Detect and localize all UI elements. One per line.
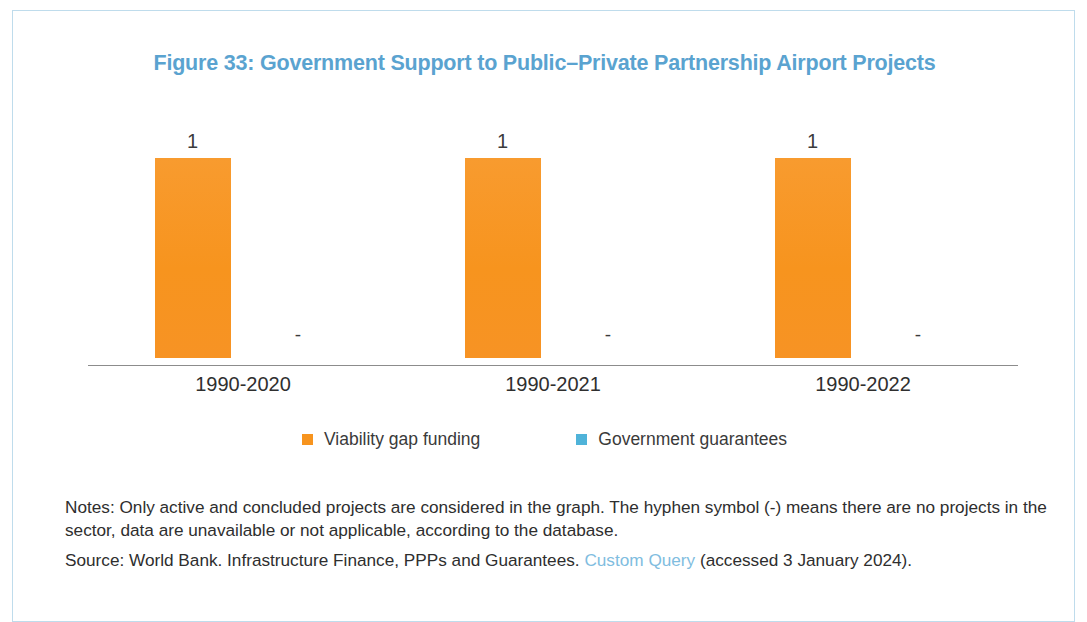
figure-title: Figure 33: Government Support to Public–… xyxy=(13,51,1076,76)
figure-notes: Notes: Only active and concluded project… xyxy=(65,496,1065,543)
figure-frame: Figure 33: Government Support to Public–… xyxy=(12,10,1075,622)
figure-source: Source: World Bank. Infrastructure Finan… xyxy=(65,549,1065,572)
bar-value-label: 1 xyxy=(155,130,231,153)
source-prefix-text: Source: World Bank. Infrastructure Finan… xyxy=(65,550,584,570)
x-axis-tick-label: 1990-2022 xyxy=(708,373,1018,396)
chart-legend: Viability gap funding Government guarant… xyxy=(13,429,1076,450)
legend-item-government-guarantees[interactable]: Government guarantees xyxy=(576,429,787,450)
legend-swatch-blue-icon xyxy=(576,434,587,445)
custom-query-link[interactable]: Custom Query xyxy=(584,550,695,570)
x-axis-tick-label: 1990-2021 xyxy=(398,373,708,396)
legend-label: Government guarantees xyxy=(598,429,787,450)
legend-item-viability-gap-funding[interactable]: Viability gap funding xyxy=(302,429,480,450)
bar-group-1990-2020: 1 - xyxy=(88,106,398,358)
bar-value-label: 1 xyxy=(465,130,541,153)
x-axis-labels: 1990-2020 1990-2021 1990-2022 xyxy=(88,373,1018,396)
bar-government-guarantees-missing: - xyxy=(260,325,336,344)
x-axis-tick-label: 1990-2020 xyxy=(88,373,398,396)
bar-viability-gap-funding[interactable] xyxy=(465,158,541,358)
chart-plot-area: 1 - 1 - 1 - xyxy=(88,106,1018,366)
x-axis-line xyxy=(88,365,1018,367)
bar-value-label: 1 xyxy=(775,130,851,153)
bar-groups: 1 - 1 - 1 - xyxy=(88,106,1018,358)
bar-viability-gap-funding[interactable] xyxy=(155,158,231,358)
bar-viability-gap-funding[interactable] xyxy=(775,158,851,358)
bar-group-1990-2021: 1 - xyxy=(398,106,708,358)
figure-footnotes: Notes: Only active and concluded project… xyxy=(65,496,1065,572)
legend-label: Viability gap funding xyxy=(324,429,480,450)
legend-swatch-orange-icon xyxy=(302,434,313,445)
bar-group-1990-2022: 1 - xyxy=(708,106,1018,358)
bar-government-guarantees-missing: - xyxy=(570,325,646,344)
source-suffix-text: (accessed 3 January 2024). xyxy=(695,550,912,570)
bar-government-guarantees-missing: - xyxy=(880,325,956,344)
